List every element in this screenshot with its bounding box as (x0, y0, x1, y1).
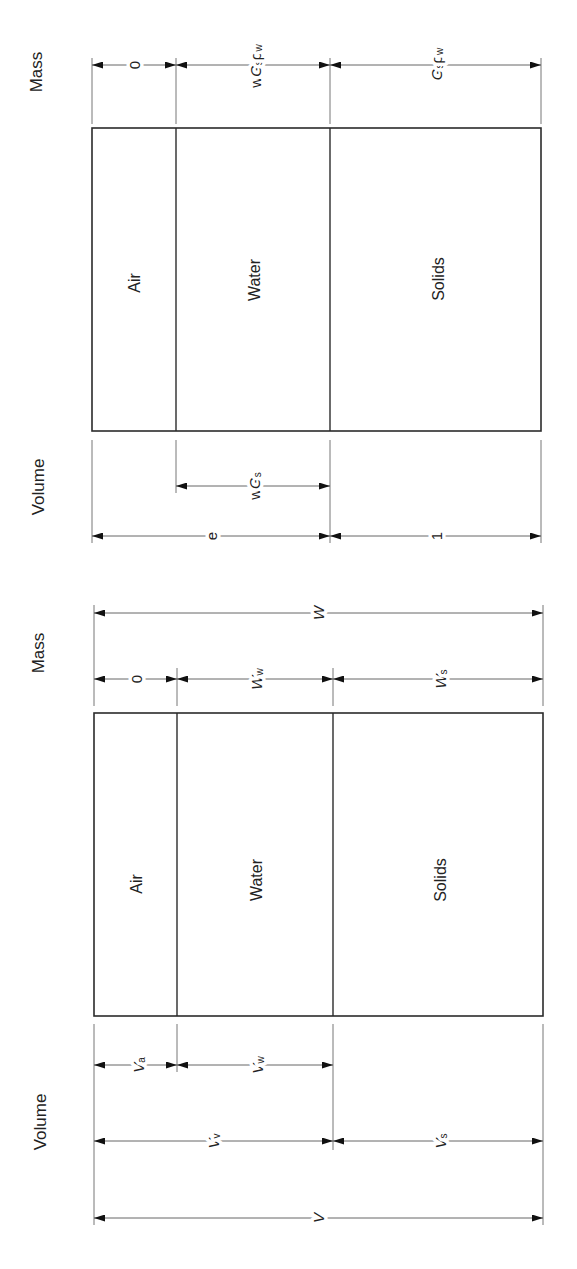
soil-phase-diagrams: Mass Volume 0 wGsρw Gsρw Air Water Solid… (0, 0, 577, 1269)
water-phase-label: Water (248, 858, 265, 901)
mass-heading: Mass (29, 633, 48, 674)
water-mass-label: wGsρw (247, 44, 264, 89)
air-mass-label: 0 (128, 675, 145, 683)
solids-mass-label: Ws (432, 669, 449, 688)
total-mass-label: W (310, 604, 327, 620)
air-phase-label: Air (126, 273, 143, 293)
solids-mass-label: Gsρw (428, 47, 445, 80)
mass-heading: Mass (27, 52, 46, 93)
volume-heading: Volume (31, 1094, 50, 1151)
void-ratio-label: e (203, 532, 220, 540)
water-mass-label: Ww (248, 668, 265, 690)
air-volume-label: Va (130, 1057, 147, 1073)
solids-volume-label: Vs (432, 1133, 449, 1148)
normalized-phase-diagram: Mass Volume 0 wGsρw Gsρw Air Water Solid… (27, 44, 542, 543)
air-mass-label: 0 (126, 61, 143, 69)
total-volume-label: V (310, 1211, 327, 1223)
phase-box (94, 713, 543, 1016)
water-volume-label: Vw (249, 1056, 266, 1074)
solids-phase-label: Solids (430, 257, 447, 301)
void-volume-label: Vv (205, 1133, 222, 1148)
water-volume-label: wGs (246, 472, 263, 501)
water-phase-label: Water (246, 258, 263, 301)
solids-phase-label: Solids (432, 858, 449, 902)
volume-heading: Volume (29, 459, 48, 516)
general-phase-diagram: Mass Volume W 0 Ww Ws Air Water Solids (29, 604, 544, 1225)
phase-box (92, 128, 541, 431)
solids-volume-label: 1 (428, 532, 445, 540)
air-phase-label: Air (128, 874, 145, 894)
